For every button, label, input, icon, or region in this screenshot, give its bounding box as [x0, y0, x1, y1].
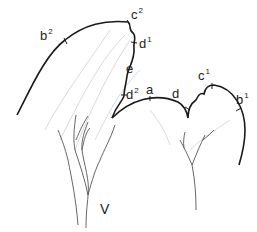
label-d1: d1: [139, 36, 152, 50]
label-d2: d2: [126, 87, 139, 101]
label-a: a: [146, 83, 153, 96]
right-veins: [180, 130, 214, 210]
label-b1: b1: [236, 92, 249, 106]
label-c1: c1: [198, 68, 210, 82]
label-V: V: [100, 202, 109, 216]
label-d: d: [172, 87, 179, 100]
label-e: e: [126, 62, 133, 75]
label-b2: b2: [40, 28, 53, 42]
label-c2: c2: [131, 7, 143, 21]
leaf-outline-drawing: [0, 0, 257, 232]
left-leaf-outline: [17, 22, 135, 118]
